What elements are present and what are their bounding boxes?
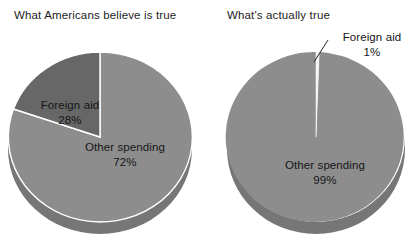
- slice-label-other-spending-belief-percent: 72%: [71, 155, 179, 170]
- slice-label-foreign-aid-belief: Foreign aid 28%: [26, 98, 114, 127]
- pie-slice-other-spending-reality[interactable]: [226, 52, 404, 222]
- slice-label-other-spending-belief: Other spending 72%: [71, 140, 179, 169]
- slice-label-foreign-aid-belief-name: Foreign aid: [41, 99, 100, 111]
- slice-label-foreign-aid-reality: Foreign aid 1%: [332, 30, 412, 59]
- panel-belief: What Americans believe is true Foreign a…: [0, 0, 209, 244]
- slice-label-other-spending-reality: Other spending 99%: [271, 158, 379, 187]
- pie-chart-figure: What Americans believe is true Foreign a…: [0, 0, 418, 244]
- panel-reality: What's actually true Foreign aid 1% Othe…: [209, 0, 418, 244]
- slice-label-foreign-aid-reality-percent: 1%: [332, 45, 412, 60]
- slice-label-other-spending-belief-name: Other spending: [85, 141, 165, 153]
- slice-label-other-spending-reality-percent: 99%: [271, 173, 379, 188]
- slice-label-other-spending-reality-name: Other spending: [285, 159, 365, 171]
- slice-label-foreign-aid-reality-name: Foreign aid: [343, 31, 402, 43]
- slice-label-foreign-aid-belief-percent: 28%: [26, 113, 114, 128]
